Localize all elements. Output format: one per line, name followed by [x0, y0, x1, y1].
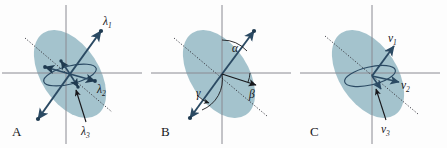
panel-b: α β γ B — [149, 0, 298, 148]
v3-label: v3 — [381, 123, 390, 138]
axis-endpoint-dot — [59, 59, 62, 62]
ellipsoid-shape — [168, 17, 270, 131]
panel-a-letter: A — [12, 124, 22, 140]
axis-endpoint-dot — [36, 117, 40, 121]
diffusion-tensor-ellipsoid-figure: λ1 λ2 λ3 A — [0, 0, 447, 148]
panel-c: v1 v2 v3 C — [298, 0, 447, 148]
axis-endpoint-dot — [99, 29, 103, 33]
gamma-label: γ — [196, 87, 201, 100]
axis-endpoint-dot — [252, 29, 256, 33]
panel-c-letter: C — [310, 124, 319, 140]
panel-b-letter: B — [161, 124, 170, 140]
v1-label: v1 — [388, 32, 397, 47]
panel-a: λ1 λ2 λ3 A — [0, 0, 149, 148]
axis-endpoint-dot — [43, 65, 47, 69]
alpha-label: α — [232, 42, 239, 54]
ellipsoid-shape — [317, 17, 419, 131]
axis-endpoint-dot — [76, 85, 79, 88]
beta-label: β — [248, 88, 255, 101]
lambda1-label: λ1 — [102, 15, 112, 30]
lambda3-label: λ3 — [80, 125, 90, 140]
axis-endpoint-dot — [188, 116, 192, 120]
